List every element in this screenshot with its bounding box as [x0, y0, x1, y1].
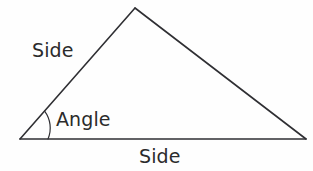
label-angle: Angle [56, 110, 111, 129]
label-side-left: Side [32, 41, 74, 60]
angle-arc [45, 111, 51, 139]
triangle-side-right-stroke [135, 8, 306, 139]
label-side-base: Side [139, 147, 181, 166]
diagram-canvas: Side Angle Side [0, 0, 313, 171]
